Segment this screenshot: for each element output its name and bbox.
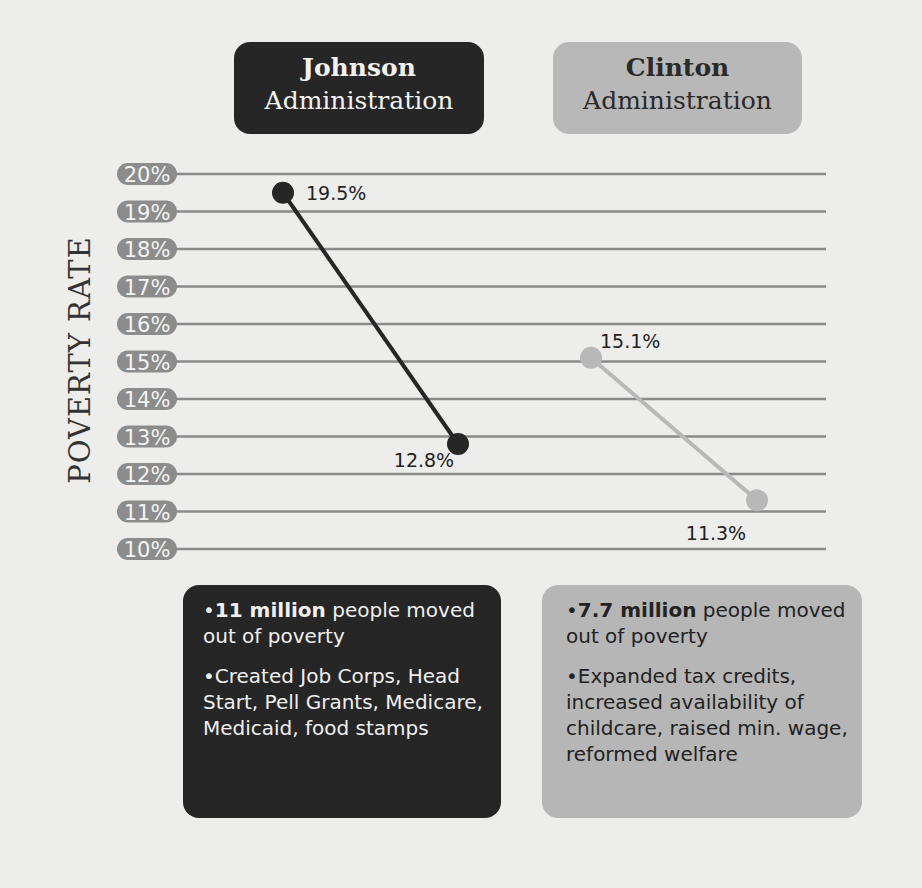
series-line <box>283 193 458 444</box>
data-point <box>580 347 602 369</box>
y-tick-label: 19% <box>124 201 171 225</box>
data-label: 15.1% <box>600 330 660 352</box>
y-tick-label: 18% <box>124 238 171 262</box>
clinton-stat: •7.7 million people moved out of poverty <box>566 597 848 649</box>
y-tick-label: 17% <box>124 276 171 300</box>
clinton-summary-card: •7.7 million people moved out of poverty… <box>542 585 862 818</box>
series-line <box>591 358 757 501</box>
y-tick-label: 11% <box>124 501 171 525</box>
johnson-stat: •11 million people moved out of poverty <box>203 597 487 649</box>
y-tick-label: 16% <box>124 313 171 337</box>
y-tick-label: 20% <box>124 163 171 187</box>
y-tick-label: 12% <box>124 463 171 487</box>
johnson-programs: •Created Job Corps, Head Start, Pell Gra… <box>203 663 487 741</box>
poverty-chart: 20%19%18%17%16%15%14%13%12%11%10%19.5%12… <box>0 0 922 580</box>
y-tick-label: 14% <box>124 388 171 412</box>
data-point <box>746 489 768 511</box>
data-point <box>272 182 294 204</box>
clinton-programs: •Expanded tax credits, increased availab… <box>566 663 848 767</box>
data-label: 11.3% <box>686 522 746 544</box>
y-tick-label: 13% <box>124 426 171 450</box>
johnson-summary-card: •11 million people moved out of poverty … <box>183 585 501 818</box>
data-label: 19.5% <box>306 182 366 204</box>
y-tick-label: 10% <box>124 538 171 562</box>
y-tick-label: 15% <box>124 351 171 375</box>
data-label: 12.8% <box>394 449 454 471</box>
